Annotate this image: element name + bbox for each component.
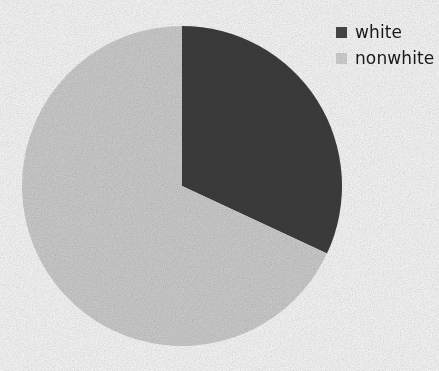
legend-swatch-white (336, 27, 347, 38)
pie-chart-figure: white nonwhite (0, 0, 439, 371)
pie-slice-group (22, 26, 342, 346)
legend-swatch-nonwhite (336, 53, 347, 64)
legend: white nonwhite (336, 20, 439, 72)
pie-chart (22, 26, 342, 346)
legend-item-white[interactable]: white (336, 20, 439, 44)
legend-label-white: white (355, 23, 402, 42)
pie-chart-svg (22, 26, 342, 346)
legend-item-nonwhite[interactable]: nonwhite (336, 46, 439, 70)
legend-label-nonwhite: nonwhite (355, 49, 434, 68)
